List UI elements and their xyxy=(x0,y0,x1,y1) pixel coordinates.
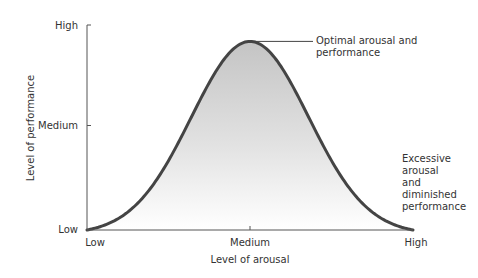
excessive-annotation-line-4: diminished xyxy=(402,189,457,200)
y-tick-label-high: High xyxy=(55,20,78,31)
curve-area-fill xyxy=(87,41,413,230)
y-tick-label-low: Low xyxy=(58,224,78,235)
excessive-annotation-line-2: arousal xyxy=(402,165,439,176)
chart: High Medium Low Low Medium High Level of… xyxy=(0,0,478,278)
optimal-annotation-line-1: Optimal arousal and xyxy=(316,35,417,46)
optimal-annotation-line-2: performance xyxy=(316,47,380,58)
excessive-annotation-line-1: Excessive xyxy=(402,153,451,164)
optimal-annotation: Optimal arousal and performance xyxy=(316,35,421,58)
excessive-annotation-line-3: and xyxy=(402,177,421,188)
excessive-annotation: Excessive arousal and diminished perform… xyxy=(402,153,466,212)
x-tick-label-low: Low xyxy=(85,237,105,248)
x-tick-label-high: High xyxy=(405,237,428,248)
x-axis-title: Level of arousal xyxy=(211,254,290,265)
y-axis-title: Level of performance xyxy=(25,75,36,181)
excessive-annotation-line-5: performance xyxy=(402,201,466,212)
x-tick-label-medium: Medium xyxy=(230,237,270,248)
y-tick-label-medium: Medium xyxy=(38,120,78,131)
